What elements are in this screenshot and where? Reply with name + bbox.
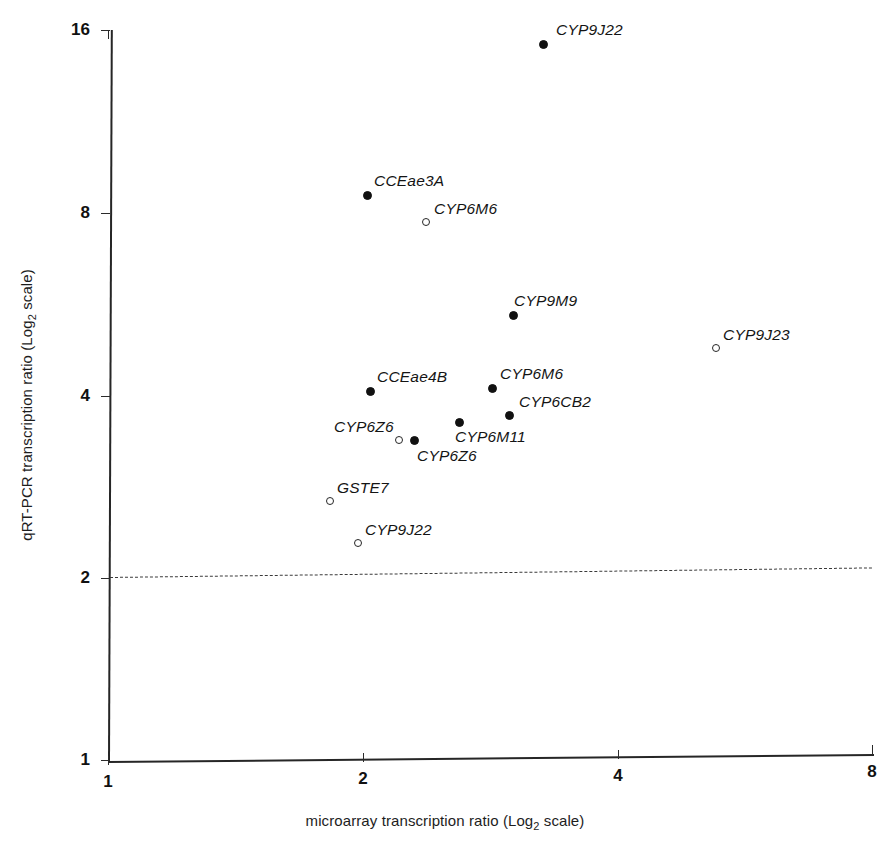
data-point-label-cyp6cb2-7: CYP6CB2 — [519, 393, 591, 411]
y-axis-title: qRT-PCR transcription ratio (Log2 scale) — [18, 195, 38, 615]
data-point-cyp9j22-0 — [539, 40, 548, 49]
x-tick-2 — [363, 753, 364, 762]
y-tick-label-16: 16 — [56, 20, 90, 40]
data-point-gste7-11 — [326, 497, 334, 505]
data-point-label-cceae4b-5: CCEae4B — [377, 368, 447, 386]
data-point-label-cyp9j22-12: CYP9J22 — [365, 521, 432, 539]
y-tick-16 — [101, 30, 110, 31]
data-point-cyp6m11-8 — [455, 418, 464, 427]
data-point-label-cyp6z6-10: CYP6Z6 — [417, 447, 477, 465]
y-tick-label-4: 4 — [56, 386, 90, 406]
data-point-label-cyp6m11-8: CYP6M11 — [455, 428, 526, 446]
data-point-cyp6z6-10 — [410, 436, 419, 445]
y-axis-title-subscript: 2 — [26, 314, 38, 320]
y-tick-label-2: 2 — [56, 568, 90, 588]
x-tick-label-2: 2 — [346, 769, 380, 789]
y-axis-title-main: qRT-PCR transcription ratio (Log — [18, 320, 35, 541]
y-tick-label-1: 1 — [56, 750, 90, 770]
x-tick-label-8: 8 — [855, 762, 889, 782]
data-point-cyp9j23-4 — [712, 344, 720, 352]
data-point-cyp6z6-9 — [395, 436, 403, 444]
x-axis-line — [108, 754, 874, 763]
y-tick-label-8: 8 — [56, 203, 90, 223]
data-point-label-cyp6z6-9: CYP6Z6 — [334, 418, 394, 436]
data-point-cceae4b-5 — [366, 387, 375, 396]
x-axis-title-tail: scale) — [540, 812, 585, 829]
x-tick-label-4: 4 — [601, 766, 635, 786]
threshold-dashed-line — [110, 567, 872, 578]
data-point-label-cyp9m9-3: CYP9M9 — [514, 292, 577, 310]
x-axis-title-main: microarray transcription ratio (Log — [306, 812, 534, 829]
data-point-cceae3a-1 — [363, 191, 372, 200]
data-point-cyp6cb2-7 — [505, 411, 514, 420]
x-tick-8 — [872, 746, 873, 755]
x-tick-label-1: 1 — [91, 772, 125, 792]
y-axis-title-tail: scale) — [18, 269, 35, 314]
x-tick-1 — [108, 756, 109, 765]
data-point-label-gste7-11: GSTE7 — [337, 479, 389, 497]
x-tick-4 — [618, 750, 619, 759]
data-point-label-cyp6m6-2: CYP6M6 — [434, 200, 497, 218]
y-tick-8 — [101, 213, 110, 214]
scatter-plot: 16 8 4 2 1 1 2 4 8 CYP9J22CCEae3ACYP6M6C… — [0, 0, 890, 858]
y-tick-2 — [101, 578, 110, 579]
data-point-cyp6m6-6 — [488, 384, 497, 393]
y-tick-4 — [101, 396, 110, 397]
data-point-cyp9m9-3 — [509, 311, 518, 320]
data-point-label-cceae3a-1: CCEae3A — [374, 172, 444, 190]
data-point-label-cyp9j22-0: CYP9J22 — [556, 21, 623, 39]
data-point-label-cyp6m6-6: CYP6M6 — [500, 365, 563, 383]
data-point-label-cyp9j23-4: CYP9J23 — [723, 326, 790, 344]
data-point-cyp6m6-2 — [422, 218, 430, 226]
x-axis-title: microarray transcription ratio (Log2 sca… — [0, 812, 890, 832]
data-point-cyp9j22-12 — [354, 539, 362, 547]
